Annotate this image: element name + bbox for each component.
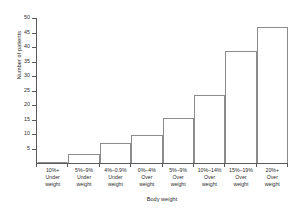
x-axis-category-labels: 10%+Underweight5%–9%Underweight4%–0.9%Un… [37,167,288,189]
bar[interactable] [163,118,194,163]
y-axis-tick-label: 10 [24,130,30,137]
bar[interactable] [194,95,225,163]
x-axis-title: Body weight [36,196,288,202]
x-axis-category-label-line: 20%+ [257,167,288,174]
x-axis-category-label-line: Under [100,174,131,181]
y-axis-tick: 30 [32,76,36,77]
x-axis-category-label-line: Under [68,174,99,181]
x-axis-category-label-line: 4%–0.9% [100,167,131,174]
y-axis-tick-label: 50 [24,14,30,21]
x-axis-category-label: 15%–19%Overweight [225,167,256,189]
x-axis-category-label-line: Over [131,174,162,181]
y-axis-tick: 15 [32,120,36,121]
x-axis-category-label: 0%–4%Overweight [131,167,162,189]
bar[interactable] [37,162,68,163]
y-axis-tick: 25 [32,91,36,92]
y-axis-tick-label: 5 [27,145,30,152]
bar-cell[interactable] [163,18,194,163]
x-axis-category-label: 10%+Underweight [37,167,68,189]
bar-cell[interactable] [257,18,288,163]
y-axis-tick: 20 [32,105,36,106]
x-axis-category-label-line: weight [225,181,256,188]
x-axis-category-label-line: weight [68,181,99,188]
bar-cell[interactable] [37,18,68,163]
y-axis-tick: 45 [32,33,36,34]
x-axis-category-label-line: Over [194,174,225,181]
x-axis-category-label: 10%–14%Overweight [194,167,225,189]
x-axis-category-label-line: Under [37,174,68,181]
bar[interactable] [100,143,131,163]
x-axis-category-label-line: weight [100,181,131,188]
y-axis-tick-label: 45 [24,29,30,36]
x-axis-category-label: 4%–0.9%Underweight [100,167,131,189]
bar-cell[interactable] [131,18,162,163]
x-axis-category-label-line: 0%–4% [131,167,162,174]
x-axis-category-label: 5%–9%Underweight [68,167,99,189]
bar-cell[interactable] [194,18,225,163]
x-axis-category-label-line: weight [37,181,68,188]
caption-remnant [8,208,298,215]
x-axis-category-label-line: Over [225,174,256,181]
bar-cell[interactable] [225,18,256,163]
bar-series [37,18,288,163]
y-axis-tick-label: 30 [24,72,30,79]
x-axis-category-label-line: weight [194,181,225,188]
x-axis-category-label-line: Over [163,174,194,181]
y-axis-tick-label: 40 [24,43,30,50]
x-axis-category-label-line: 15%–19% [225,167,256,174]
bar[interactable] [131,135,162,163]
y-axis-tick: 35 [32,62,36,63]
x-axis-category-label-line: 5%–9% [68,167,99,174]
x-axis-category-label-line: weight [131,181,162,188]
bar[interactable] [68,154,99,163]
x-axis-category-label-line: Over [257,174,288,181]
bar[interactable] [225,51,256,163]
x-axis-category-label-line: 10%+ [37,167,68,174]
y-axis-tick-label: 15 [24,116,30,123]
y-axis-tick-label: 35 [24,58,30,65]
y-axis-tick: 40 [32,47,36,48]
x-axis-category-label-line: 10%–14% [194,167,225,174]
plot-area: 5101520253035404550 [36,18,288,164]
x-axis-category-label-line: weight [257,181,288,188]
bar-cell[interactable] [68,18,99,163]
y-axis-tick: 5 [32,149,36,150]
y-axis-tick-label: 20 [24,101,30,108]
y-axis-tick: 50 [32,18,36,19]
x-axis-category-label-line: weight [163,181,194,188]
x-axis-category-label-line: 5%–9% [163,167,194,174]
y-axis-tick: 10 [32,134,36,135]
bar[interactable] [257,27,288,163]
y-axis-title: Number of patients [16,0,22,110]
x-axis-category-label: 20%+Overweight [257,167,288,189]
chart-figure: Number of patients 5101520253035404550 1… [0,0,303,215]
x-axis-category-label: 5%–9%Overweight [163,167,194,189]
bar-cell[interactable] [100,18,131,163]
y-axis-tick-label: 25 [24,87,30,94]
